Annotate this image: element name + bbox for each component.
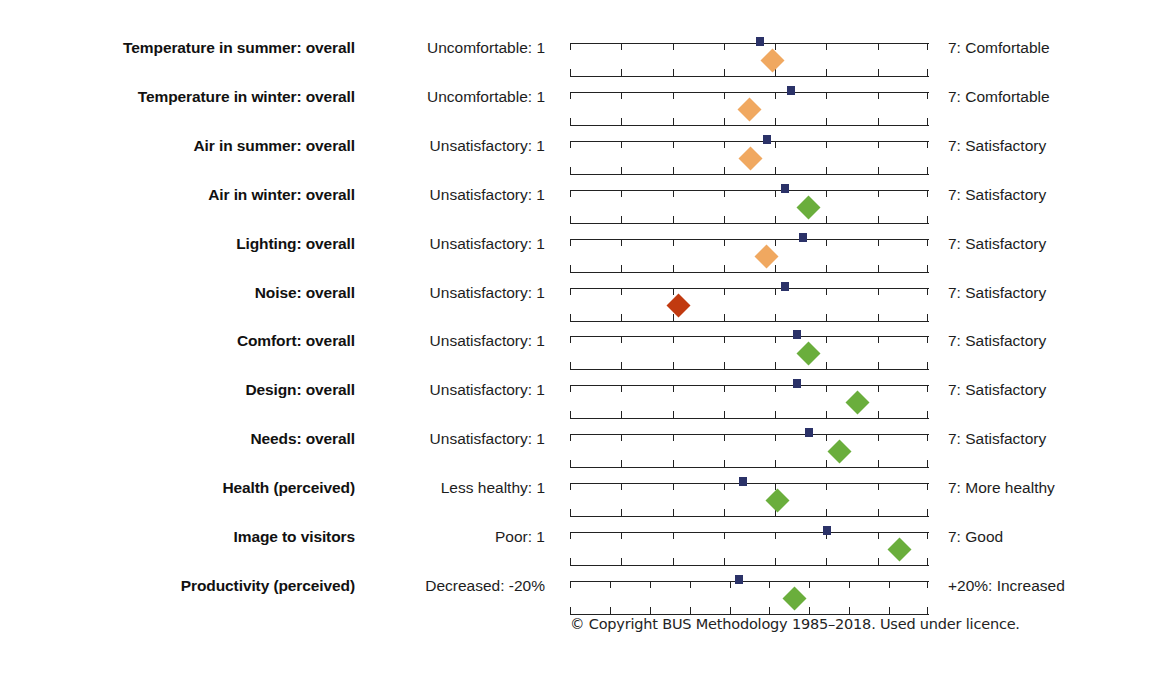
survey-row: Temperature in winter: overallUncomforta… <box>0 79 1149 128</box>
axis-tick <box>775 190 776 197</box>
row-low-anchor-label: Less healthy: 1 <box>370 479 545 497</box>
axis-tick <box>724 167 725 174</box>
axis-tick <box>673 532 674 539</box>
axis-line-bot <box>570 174 929 175</box>
axis-tick <box>724 216 725 223</box>
row-low-anchor-label: Unsatisfactory: 1 <box>370 381 545 399</box>
row-scale-axis <box>570 92 929 125</box>
axis-tick <box>621 216 622 223</box>
survey-row: Image to visitorsPoor: 17: Good <box>0 519 1149 568</box>
row-scale-axis <box>570 532 929 565</box>
axis-tick <box>775 385 776 392</box>
axis-tick <box>650 607 651 614</box>
axis-tick <box>878 558 879 565</box>
axis-endcap <box>927 607 928 614</box>
axis-tick <box>775 411 776 418</box>
axis-tick <box>889 581 890 588</box>
row-variable-label: Productivity (perceived) <box>0 577 355 595</box>
axis-tick <box>878 190 879 197</box>
survey-row: Air in winter: overallUnsatisfactory: 17… <box>0 177 1149 226</box>
axis-tick <box>673 118 674 125</box>
survey-row: Comfort: overallUnsatisfactory: 17: Sati… <box>0 323 1149 372</box>
axis-tick <box>621 483 622 490</box>
axis-tick <box>621 314 622 321</box>
axis-endcap <box>570 362 571 369</box>
axis-endcap <box>927 92 928 99</box>
axis-endcap <box>570 314 571 321</box>
axis-tick <box>621 167 622 174</box>
axis-tick <box>621 239 622 246</box>
axis-tick <box>775 434 776 441</box>
axis-tick <box>878 411 879 418</box>
axis-tick <box>673 509 674 516</box>
axis-endcap <box>570 190 571 197</box>
row-variable-label: Air in summer: overall <box>0 137 355 155</box>
bus-survey-chart: Temperature in summer: overallUncomforta… <box>0 0 1149 677</box>
axis-tick <box>690 607 691 614</box>
axis-tick <box>826 509 827 516</box>
row-low-anchor-label: Unsatisfactory: 1 <box>370 430 545 448</box>
score-marker <box>782 586 806 610</box>
row-scale-axis <box>570 385 929 418</box>
axis-tick <box>826 141 827 148</box>
axis-tick <box>826 558 827 565</box>
axis-tick <box>826 69 827 76</box>
axis-tick <box>826 118 827 125</box>
axis-tick <box>621 141 622 148</box>
axis-endcap <box>570 509 571 516</box>
axis-endcap <box>927 434 928 441</box>
row-low-anchor-label: Poor: 1 <box>370 528 545 546</box>
axis-line-top <box>570 532 929 533</box>
axis-tick <box>878 141 879 148</box>
row-scale-axis <box>570 43 929 76</box>
row-scale-axis <box>570 141 929 174</box>
axis-endcap <box>570 288 571 295</box>
axis-tick <box>826 314 827 321</box>
row-low-anchor-label: Unsatisfactory: 1 <box>370 137 545 155</box>
axis-tick <box>724 362 725 369</box>
axis-line-top <box>570 385 929 386</box>
axis-tick <box>775 362 776 369</box>
benchmark-marker <box>787 86 795 95</box>
axis-tick <box>673 265 674 272</box>
axis-endcap <box>927 43 928 50</box>
axis-endcap <box>570 239 571 246</box>
axis-tick <box>878 167 879 174</box>
axis-line-bot <box>570 418 929 419</box>
axis-tick <box>775 288 776 295</box>
axis-line-bot <box>570 272 929 273</box>
axis-endcap <box>570 92 571 99</box>
axis-tick <box>673 239 674 246</box>
axis-tick <box>673 43 674 50</box>
row-variable-label: Health (perceived) <box>0 479 355 497</box>
row-high-anchor-label: 7: Satisfactory <box>948 186 1148 204</box>
axis-line-bot <box>570 223 929 224</box>
axis-tick <box>724 336 725 343</box>
axis-tick <box>621 460 622 467</box>
axis-tick <box>621 434 622 441</box>
axis-tick <box>621 532 622 539</box>
axis-endcap <box>927 69 928 76</box>
axis-tick <box>724 434 725 441</box>
row-high-anchor-label: 7: Satisfactory <box>948 284 1148 302</box>
row-low-anchor-label: Unsatisfactory: 1 <box>370 186 545 204</box>
score-marker <box>888 537 912 561</box>
axis-endcap <box>927 460 928 467</box>
row-high-anchor-label: 7: More healthy <box>948 479 1148 497</box>
axis-tick <box>724 141 725 148</box>
axis-tick <box>878 434 879 441</box>
score-marker <box>797 195 821 219</box>
axis-line-bot <box>570 76 929 77</box>
axis-tick <box>775 43 776 50</box>
axis-tick <box>826 190 827 197</box>
axis-tick <box>724 69 725 76</box>
axis-tick <box>730 607 731 614</box>
axis-endcap <box>927 336 928 343</box>
benchmark-marker <box>735 575 743 584</box>
axis-tick <box>673 314 674 321</box>
axis-tick <box>826 411 827 418</box>
axis-endcap <box>927 532 928 539</box>
survey-row: Air in summer: overallUnsatisfactory: 17… <box>0 128 1149 177</box>
axis-tick <box>769 581 770 588</box>
axis-tick <box>724 239 725 246</box>
